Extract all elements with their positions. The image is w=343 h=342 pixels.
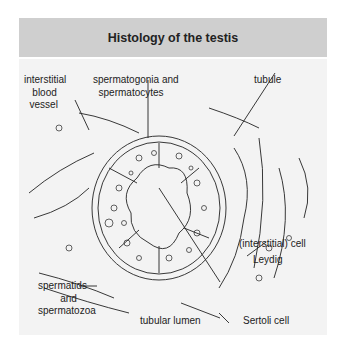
- label-sertoli-cell: Sertoli cell: [243, 315, 289, 328]
- diagram-panel: Histology of the testis interstitial blo…: [19, 18, 327, 335]
- label-tubular-lumen: tubular lumen: [140, 315, 201, 328]
- label-interstitial-blood-vessel: interstitial blood vessel: [24, 74, 66, 112]
- label-spermatogonia: spermatogonia and spermatocytes: [93, 74, 179, 99]
- label-spermatids: spermatids and spermatozoa: [38, 280, 96, 318]
- label-interstitial-cell: (interstitial) cell: [239, 238, 306, 251]
- label-leydig: Leydig: [253, 254, 282, 267]
- label-tubule: tubule: [254, 74, 281, 87]
